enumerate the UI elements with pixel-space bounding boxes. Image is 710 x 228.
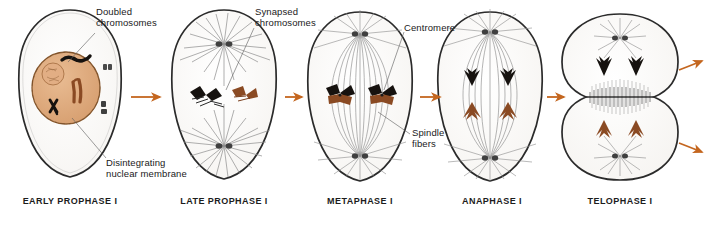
centromere-dot	[338, 93, 341, 96]
annotation-centromere: Centromere	[404, 22, 455, 33]
cell-membrane	[172, 10, 276, 179]
arrow-telophase-out-bottom	[679, 143, 702, 152]
cell-early-prophase-i	[19, 10, 121, 177]
arrow-telophase-out-top	[679, 61, 702, 70]
centromere-dot	[380, 93, 383, 96]
meiosis-diagram	[0, 0, 710, 228]
phase-label-early-prophase-i: EARLY PROPHASE I	[23, 196, 118, 206]
nucleolus	[42, 63, 64, 85]
annotation-spindle-fibers: Spindle fibers	[412, 127, 444, 149]
phase-label-metaphase-i: METAPHASE I	[327, 196, 393, 206]
annotation-doubled-chromosomes: Doubled chromosomes	[96, 6, 157, 28]
cell-anaphase-i	[438, 9, 542, 181]
phase-label-telophase-i: TELOPHASE I	[588, 196, 653, 206]
cell-metaphase-i	[308, 10, 412, 181]
cell-late-prophase-i	[172, 10, 276, 179]
cell-telophase-i	[562, 14, 678, 180]
phase-label-anaphase-i: ANAPHASE I	[462, 196, 522, 206]
annotation-disintegrating-nuclear-membrane: Disintegrating nuclear membrane	[106, 157, 187, 179]
annotation-synapsed-chromosomes: Synapsed chromosomes	[255, 6, 316, 28]
nuclear-membrane	[32, 52, 100, 124]
nucleus	[32, 52, 100, 124]
phase-label-late-prophase-i: LATE PROPHASE I	[180, 196, 268, 206]
